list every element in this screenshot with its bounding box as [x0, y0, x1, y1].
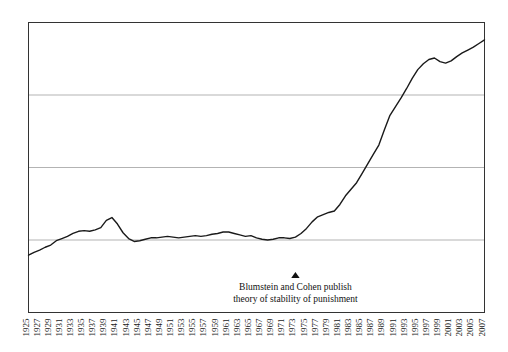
x-axis-tick-label: 1991 — [388, 319, 398, 337]
x-axis-tick-label: 1957 — [198, 318, 208, 337]
x-axis-tick-label: 2005 — [465, 318, 475, 337]
x-axis-tick-label: 1987 — [365, 318, 375, 337]
x-axis-tick-label: 1939 — [98, 318, 108, 337]
x-axis-tick-labels: 1925192719291931193319351937193919411943… — [21, 318, 487, 337]
x-axis-tick-label: 1947 — [143, 318, 153, 337]
x-axis-tick-label: 1935 — [76, 318, 86, 337]
x-axis-tick-label: 1961 — [221, 319, 231, 337]
x-axis-tick-label: 1927 — [32, 318, 42, 337]
x-axis-tick-label: 1929 — [43, 318, 53, 337]
x-axis-tick-label: 1965 — [243, 318, 253, 337]
x-axis-tick-label: 1977 — [310, 318, 320, 337]
x-axis-tick-label: 1979 — [321, 318, 331, 337]
x-axis-tick-label: 2003 — [454, 318, 464, 337]
x-axis-tick-label: 1967 — [254, 318, 264, 337]
x-axis-tick-label: 1963 — [232, 318, 242, 337]
x-axis-tick-label: 1931 — [54, 319, 64, 337]
x-axis-tick-label: 1973 — [287, 318, 297, 337]
x-axis-tick-label: 1951 — [165, 319, 175, 337]
x-axis-tick-label: 1975 — [299, 318, 309, 337]
x-axis-tick-label: 1983 — [343, 318, 353, 337]
x-axis-tick-label: 1989 — [376, 318, 386, 337]
x-axis-tick-label: 1993 — [399, 318, 409, 337]
x-axis-tick-label: 1955 — [187, 318, 197, 337]
x-axis-tick-label: 1925 — [21, 318, 31, 337]
x-axis-tick-label: 1941 — [109, 319, 119, 337]
x-axis-tick-label: 1937 — [87, 318, 97, 337]
x-axis-tick-label: 1953 — [176, 318, 186, 337]
x-axis-tick-label: 1949 — [154, 318, 164, 337]
annotation-line-2: theory of stability of punishment — [233, 294, 358, 304]
x-axis-tick-label: 1933 — [65, 318, 75, 337]
x-axis-tick-label: 1959 — [210, 318, 220, 337]
x-axis-tick-label: 1999 — [432, 318, 442, 337]
x-axis-tick-label: 1985 — [354, 318, 364, 337]
x-axis-tick-label: 1945 — [132, 318, 142, 337]
x-axis-tick-label: 2001 — [443, 319, 453, 337]
x-axis-tick-label: 1969 — [265, 318, 275, 337]
x-axis-tick-label: 1943 — [121, 318, 131, 337]
x-axis-tick-label: 1995 — [410, 318, 420, 337]
annotation-line-1: Blumstein and Cohen publish — [239, 282, 352, 292]
x-axis-tick-label: 1981 — [332, 319, 342, 337]
x-axis-tick-label: 1997 — [421, 318, 431, 337]
line-chart: 1925192719291931193319351937193919411943… — [0, 0, 508, 352]
x-axis-tick-label: 2007 — [477, 318, 487, 337]
x-axis-tick-label: 1971 — [276, 319, 286, 337]
chart-container: 1925192719291931193319351937193919411943… — [0, 0, 508, 352]
